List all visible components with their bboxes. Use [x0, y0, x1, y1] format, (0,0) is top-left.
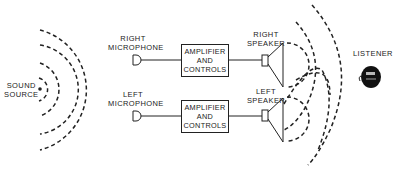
listener-head-icon: [359, 66, 381, 88]
sound-source-label-line2: SOURCE: [4, 90, 39, 99]
left-microphone-label: LEFT MICROPHONE: [108, 90, 158, 108]
right-speaker-body: [262, 55, 268, 66]
right-speaker-label-line1: RIGHT: [253, 30, 278, 39]
right-speaker-cone: [268, 43, 283, 87]
diagram-canvas: [0, 0, 401, 174]
right-amplifier-line2: AND: [197, 56, 213, 65]
right-amplifier-line1: AMPLIFIER: [184, 47, 225, 56]
right-speaker-label-line2: SPEAKER: [247, 39, 285, 48]
right-speaker-label: RIGHT SPEAKER: [246, 30, 286, 48]
left-amplifier-box: AMPLIFIER AND CONTROLS: [181, 100, 229, 133]
listener-label: LISTENER: [353, 49, 393, 58]
left-amplifier-line3: CONTROLS: [184, 121, 227, 130]
left-speaker-wave-far: [296, 73, 330, 95]
left-speaker-body: [262, 110, 268, 121]
left-amplifier-line1: AMPLIFIER: [184, 103, 225, 112]
sound-source-dot: [38, 87, 42, 91]
left-microphone-label-line2: MICROPHONE: [108, 99, 164, 108]
right-microphone-label-line1: RIGHT: [120, 34, 145, 43]
sound-wave-3: [40, 45, 78, 134]
right-microphone-icon: [133, 55, 141, 65]
left-microphone-label-line1: LEFT: [123, 90, 143, 99]
left-amplifier-line2: AND: [197, 112, 213, 121]
left-speaker-label: LEFT SPEAKER: [246, 87, 286, 105]
sound-source-label-line1: SOUND: [7, 81, 36, 90]
sound-source-label: SOUND SOURCE: [4, 81, 39, 99]
right-microphone-label-line2: MICROPHONE: [108, 43, 164, 52]
left-microphone-icon: [133, 111, 141, 121]
right-microphone-label: RIGHT MICROPHONE: [108, 34, 158, 52]
left-speaker-label-line2: SPEAKER: [247, 96, 285, 105]
sound-wave-2: [40, 63, 59, 116]
right-amplifier-line3: CONTROLS: [184, 65, 227, 74]
right-speaker-wave-far: [308, 5, 342, 165]
right-speaker-wave-mid: [284, 22, 316, 130]
right-amplifier-box: AMPLIFIER AND CONTROLS: [181, 44, 229, 77]
left-speaker-label-line1: LEFT: [256, 87, 276, 96]
right-speaker-wave-near: [287, 43, 309, 87]
listener-label-text: LISTENER: [353, 49, 393, 58]
